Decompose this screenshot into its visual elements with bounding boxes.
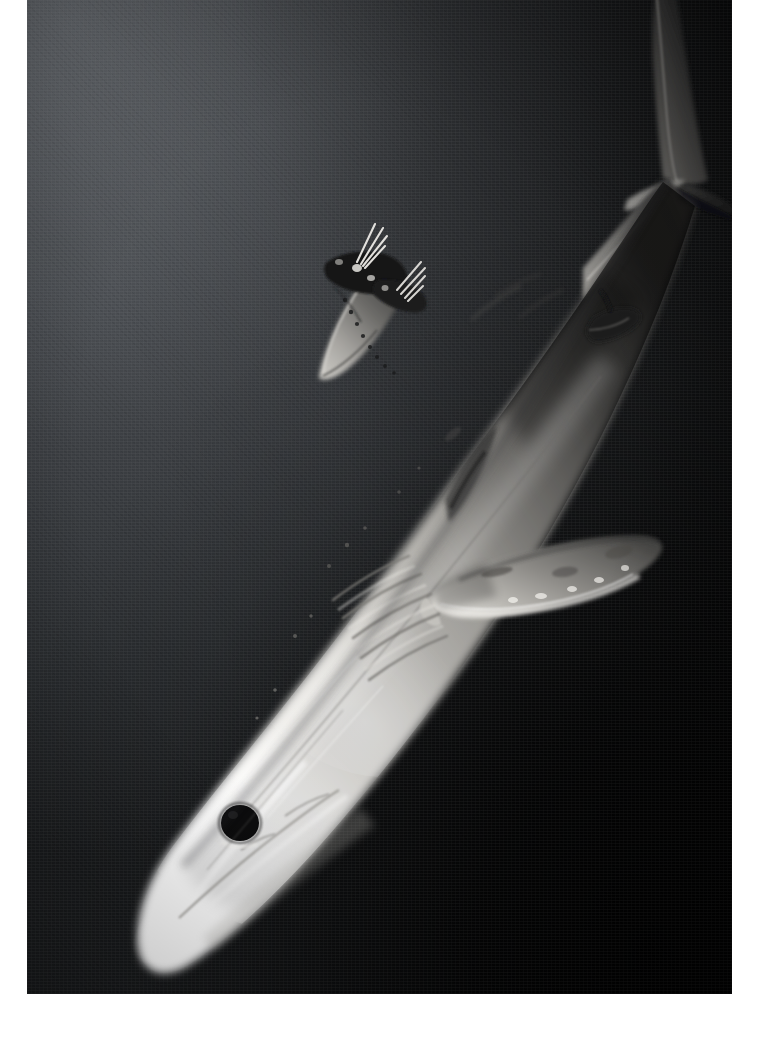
body-shading-group xyxy=(27,0,732,994)
shark-body xyxy=(27,0,732,994)
page-root: shortfin-mako-shark Satellite tag on dor… xyxy=(0,0,769,1047)
tag-highlight-1 xyxy=(352,264,362,272)
scar-upper-flank-2 xyxy=(495,274,541,296)
tag-highlight-4 xyxy=(335,259,343,265)
photograph xyxy=(27,0,732,994)
caudal-upper-lobe xyxy=(653,0,708,184)
shark-illustration xyxy=(27,0,732,994)
scar-upper-flank-1 xyxy=(471,286,521,320)
tag-highlight-2 xyxy=(367,275,375,281)
tag-highlight-3 xyxy=(382,285,389,291)
scar-upper-flank-3 xyxy=(519,290,563,318)
eye xyxy=(221,805,259,841)
caudal-fin xyxy=(624,0,732,221)
mark-near-dorsal xyxy=(443,425,463,444)
body-cross-shading xyxy=(27,0,732,994)
